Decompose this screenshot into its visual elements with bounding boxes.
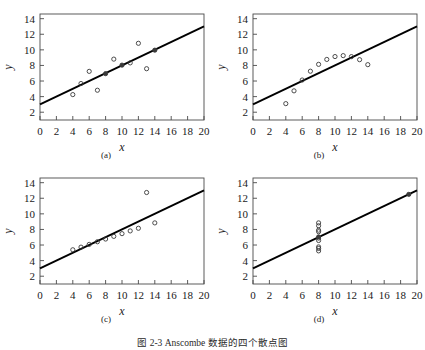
svg-text:2: 2	[267, 125, 273, 137]
svg-text:16: 16	[166, 289, 178, 301]
svg-text:0: 0	[37, 289, 43, 301]
svg-text:10: 10	[330, 125, 342, 137]
svg-text:16: 16	[166, 125, 178, 137]
svg-text:18: 18	[182, 289, 194, 301]
svg-text:y: y	[1, 228, 15, 235]
svg-text:20: 20	[199, 125, 211, 137]
svg-text:18: 18	[182, 125, 194, 137]
svg-text:4: 4	[70, 289, 76, 301]
svg-text:4: 4	[30, 255, 36, 267]
svg-text:10: 10	[117, 125, 129, 137]
svg-text:20: 20	[412, 289, 424, 301]
svg-text:12: 12	[133, 289, 144, 301]
svg-text:2: 2	[54, 125, 60, 137]
svg-text:10: 10	[330, 289, 342, 301]
svg-text:8: 8	[103, 289, 109, 301]
svg-text:2: 2	[54, 289, 60, 301]
svg-text:4: 4	[283, 289, 289, 301]
panel-a: 024681012141618202468101214xy (a)	[0, 2, 212, 168]
svg-text:14: 14	[149, 125, 161, 137]
panel-b: 024681012141618202468101214xy (b)	[213, 2, 425, 168]
svg-text:y: y	[1, 64, 15, 71]
svg-text:6: 6	[30, 75, 36, 87]
svg-text:20: 20	[412, 125, 424, 137]
panel-caption-c: (c)	[0, 314, 212, 324]
svg-text:12: 12	[346, 125, 357, 137]
svg-text:0: 0	[250, 125, 256, 137]
svg-text:6: 6	[86, 289, 92, 301]
svg-text:4: 4	[283, 125, 289, 137]
svg-text:14: 14	[362, 125, 374, 137]
svg-text:8: 8	[316, 125, 322, 137]
svg-text:12: 12	[346, 289, 357, 301]
svg-text:8: 8	[30, 223, 36, 235]
svg-text:14: 14	[237, 177, 249, 189]
scatter-plot-b: 024681012141618202468101214xy	[213, 2, 425, 152]
svg-text:2: 2	[243, 270, 249, 282]
scatter-plot-c: 024681012141618202468101214xy	[0, 166, 212, 316]
svg-text:10: 10	[117, 289, 129, 301]
svg-text:2: 2	[30, 270, 36, 282]
svg-text:4: 4	[30, 91, 36, 103]
svg-text:2: 2	[243, 106, 249, 118]
svg-text:12: 12	[24, 192, 35, 204]
svg-text:12: 12	[24, 28, 35, 40]
svg-text:2: 2	[30, 106, 36, 118]
panel-d: 024681012141618202468101214xy (d)	[213, 166, 425, 332]
svg-text:4: 4	[243, 255, 249, 267]
scatter-plot-a: 024681012141618202468101214xy	[0, 2, 212, 152]
svg-text:10: 10	[24, 44, 36, 56]
figure-caption: 图 2-3 Anscombe 数据的四个散点图	[0, 337, 425, 350]
svg-text:8: 8	[103, 125, 109, 137]
panel-c: 024681012141618202468101214xy (c)	[0, 166, 212, 332]
svg-text:0: 0	[250, 289, 256, 301]
svg-text:8: 8	[316, 289, 322, 301]
svg-text:10: 10	[24, 208, 36, 220]
svg-text:16: 16	[379, 125, 391, 137]
svg-text:10: 10	[237, 208, 249, 220]
scatter-plot-d: 024681012141618202468101214xy	[213, 166, 425, 316]
panel-caption-d: (d)	[213, 314, 425, 324]
svg-text:18: 18	[395, 125, 407, 137]
panel-caption-a: (a)	[0, 150, 212, 160]
svg-text:6: 6	[299, 125, 305, 137]
svg-text:6: 6	[86, 125, 92, 137]
svg-text:12: 12	[237, 192, 248, 204]
svg-text:8: 8	[243, 59, 249, 71]
anscombe-quartet-figure: 024681012141618202468101214xy (a) 024681…	[0, 0, 425, 350]
svg-text:14: 14	[149, 289, 161, 301]
svg-text:y: y	[214, 64, 228, 71]
svg-text:y: y	[214, 228, 228, 235]
svg-text:2: 2	[267, 289, 273, 301]
svg-text:14: 14	[24, 177, 36, 189]
svg-text:16: 16	[379, 289, 391, 301]
svg-text:6: 6	[30, 239, 36, 251]
svg-text:4: 4	[243, 91, 249, 103]
svg-text:14: 14	[362, 289, 374, 301]
svg-text:6: 6	[243, 239, 249, 251]
svg-text:12: 12	[237, 28, 248, 40]
svg-text:0: 0	[37, 125, 43, 137]
svg-text:6: 6	[299, 289, 305, 301]
panel-caption-b: (b)	[213, 150, 425, 160]
svg-text:10: 10	[237, 44, 249, 56]
svg-text:14: 14	[237, 13, 249, 25]
svg-text:20: 20	[199, 289, 211, 301]
svg-text:6: 6	[243, 75, 249, 87]
svg-text:8: 8	[30, 59, 36, 71]
svg-text:4: 4	[70, 125, 76, 137]
svg-text:8: 8	[243, 223, 249, 235]
svg-text:14: 14	[24, 13, 36, 25]
svg-text:12: 12	[133, 125, 144, 137]
svg-text:18: 18	[395, 289, 407, 301]
